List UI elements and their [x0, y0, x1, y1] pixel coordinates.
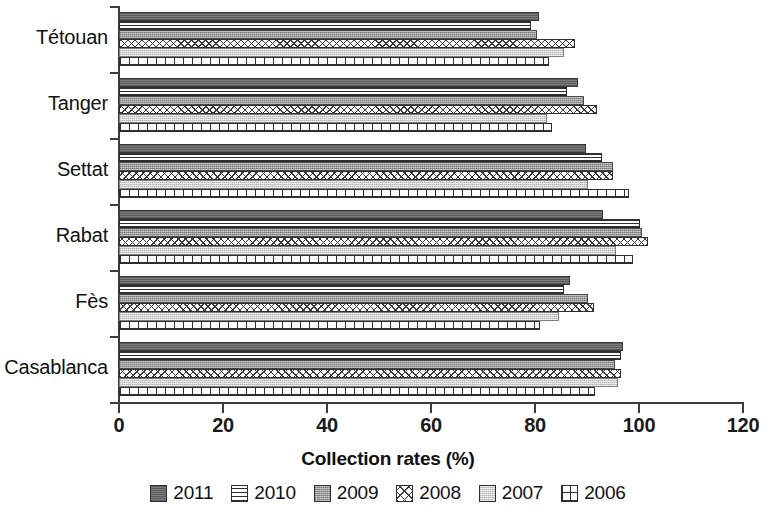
- value-axis-tick-label: 40: [316, 414, 338, 437]
- bar-rabat-2010[interactable]: [119, 219, 640, 228]
- value-axis-tick: [118, 404, 120, 413]
- legend-label-2010: 2010: [254, 482, 295, 504]
- bar-fs-2006[interactable]: [119, 321, 540, 330]
- bar-group: [119, 78, 743, 132]
- bar-fs-2008[interactable]: [119, 303, 594, 312]
- legend-label-2009: 2009: [337, 482, 378, 504]
- bar-settat-2010[interactable]: [119, 153, 602, 162]
- value-axis-tick: [742, 404, 744, 413]
- bar-tanger-2006[interactable]: [119, 123, 552, 132]
- legend-item-2008[interactable]: 2008: [396, 482, 460, 504]
- legend-label-2007: 2007: [502, 482, 543, 504]
- bar-rabat-2007[interactable]: [119, 246, 616, 255]
- category-label-ttouan: Tétouan: [0, 26, 108, 49]
- bar-casablanca-2006[interactable]: [119, 387, 595, 396]
- category-axis-tick: [110, 138, 119, 140]
- bar-settat-2011[interactable]: [119, 144, 586, 153]
- bar-casablanca-2008[interactable]: [119, 369, 621, 378]
- bar-rabat-2006[interactable]: [119, 255, 633, 264]
- bar-ttouan-2007[interactable]: [119, 48, 564, 57]
- legend-swatch-2006: [561, 485, 578, 502]
- category-axis-tick: [110, 270, 119, 272]
- category-label-fs: Fès: [0, 290, 108, 313]
- legend-item-2007[interactable]: 2007: [479, 482, 543, 504]
- bar-settat-2007[interactable]: [119, 180, 588, 189]
- value-axis-tick: [222, 404, 224, 413]
- category-label-casablanca: Casablanca: [0, 356, 108, 379]
- legend-swatch-2009: [314, 485, 331, 502]
- bar-ttouan-2009[interactable]: [119, 30, 537, 39]
- value-axis-tick-label: 100: [623, 414, 655, 437]
- value-axis-tick-label: 80: [524, 414, 546, 437]
- bar-tanger-2007[interactable]: [119, 114, 547, 123]
- legend-label-2011: 2011: [173, 482, 213, 504]
- legend-swatch-2008: [396, 485, 413, 502]
- bar-ttouan-2008[interactable]: [119, 39, 575, 48]
- bar-casablanca-2007[interactable]: [119, 378, 618, 387]
- value-axis-tick-label: 20: [212, 414, 234, 437]
- bar-group: [119, 12, 743, 66]
- bar-tanger-2011[interactable]: [119, 78, 578, 87]
- bar-casablanca-2009[interactable]: [119, 360, 615, 369]
- bar-settat-2006[interactable]: [119, 189, 629, 198]
- legend: 201120102009200820072006: [0, 482, 776, 504]
- value-axis-tick: [534, 404, 536, 413]
- legend-label-2006: 2006: [584, 482, 625, 504]
- category-label-tanger: Tanger: [0, 92, 108, 115]
- bar-fs-2009[interactable]: [119, 294, 588, 303]
- category-axis-tick: [110, 204, 119, 206]
- bar-rabat-2011[interactable]: [119, 210, 603, 219]
- plot-area: [119, 6, 743, 402]
- bar-settat-2008[interactable]: [119, 171, 613, 180]
- bar-ttouan-2011[interactable]: [119, 12, 539, 21]
- bar-group: [119, 144, 743, 198]
- category-label-settat: Settat: [0, 158, 108, 181]
- legend-swatch-2007: [479, 485, 496, 502]
- value-axis-tick: [638, 404, 640, 413]
- x-axis-title: Collection rates (%): [0, 448, 776, 470]
- value-axis-tick: [430, 404, 432, 413]
- bar-tanger-2009[interactable]: [119, 96, 584, 105]
- legend-item-2011[interactable]: 2011: [150, 482, 213, 504]
- bar-tanger-2010[interactable]: [119, 87, 567, 96]
- collection-rates-bar-chart: TétouanTangerSettatRabatFèsCasablanca 02…: [0, 0, 776, 514]
- legend-item-2009[interactable]: 2009: [314, 482, 378, 504]
- category-axis-tick: [110, 72, 119, 74]
- bar-rabat-2009[interactable]: [119, 228, 642, 237]
- value-axis-tick-label: 0: [114, 414, 125, 437]
- category-axis-tick: [110, 336, 119, 338]
- bar-ttouan-2010[interactable]: [119, 21, 531, 30]
- bar-fs-2010[interactable]: [119, 285, 564, 294]
- bar-casablanca-2011[interactable]: [119, 342, 623, 351]
- bar-fs-2007[interactable]: [119, 312, 559, 321]
- legend-swatch-2011: [150, 485, 167, 502]
- bar-rabat-2008[interactable]: [119, 237, 648, 246]
- bar-tanger-2008[interactable]: [119, 105, 597, 114]
- bar-group: [119, 342, 743, 396]
- bar-fs-2011[interactable]: [119, 276, 570, 285]
- value-axis-tick-label: 120: [727, 414, 759, 437]
- bar-group: [119, 210, 743, 264]
- category-axis-tick: [110, 6, 119, 8]
- value-axis-tick-label: 60: [420, 414, 442, 437]
- bar-group: [119, 276, 743, 330]
- legend-item-2010[interactable]: 2010: [231, 482, 295, 504]
- bar-casablanca-2010[interactable]: [119, 351, 621, 360]
- value-axis-tick: [326, 404, 328, 413]
- legend-swatch-2010: [231, 485, 248, 502]
- category-label-rabat: Rabat: [0, 224, 108, 247]
- legend-item-2006[interactable]: 2006: [561, 482, 625, 504]
- bar-ttouan-2006[interactable]: [119, 57, 549, 66]
- legend-label-2008: 2008: [419, 482, 460, 504]
- bar-settat-2009[interactable]: [119, 162, 613, 171]
